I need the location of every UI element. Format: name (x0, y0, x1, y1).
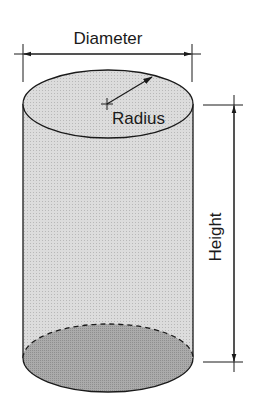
cylinder-diagram: Diameter Radius Height (0, 0, 265, 411)
height-label: Height (206, 212, 225, 261)
diameter-label: Diameter (74, 29, 143, 48)
radius-label: Radius (112, 109, 165, 128)
